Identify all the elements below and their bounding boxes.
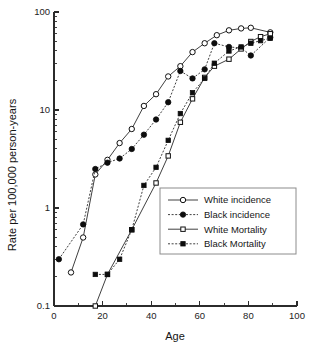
series-1-point-12-marker	[212, 41, 217, 46]
rate-vs-age-log-plot: 0.1110100 020406080100 Rate per 100,000 …	[0, 0, 310, 346]
series-3-point-2-marker	[117, 257, 121, 261]
series-3-point-3-marker	[130, 228, 134, 232]
series-1-point-10-marker	[190, 76, 195, 81]
series-3-point-0-marker	[93, 272, 97, 276]
series-1-point-4-marker	[117, 156, 122, 161]
series-0-point-0-marker	[68, 270, 73, 275]
series-1-point-7-marker	[153, 117, 158, 122]
series-3-point-14-marker	[258, 38, 262, 42]
y-tick-label: 10	[39, 104, 50, 115]
legend-0-marker	[180, 197, 185, 202]
x-tick-label: 60	[195, 310, 206, 321]
series-0-point-6-marker	[141, 103, 146, 108]
series-3-point-5-marker	[154, 165, 158, 169]
series-0-point-12-marker	[214, 32, 219, 37]
series-0-point-8-marker	[166, 74, 171, 79]
series-0-point-10-marker	[190, 49, 195, 54]
legend-label-0: White incidence	[204, 194, 271, 205]
series-1-point-5-marker	[129, 146, 134, 151]
chart-legend: White incidenceBlack incidenceWhite Mort…	[160, 188, 296, 254]
series-3-point-12-marker	[239, 45, 243, 49]
y-tick-label: 100	[34, 6, 50, 17]
y-axis: 0.1110100	[34, 6, 59, 311]
series-3-point-15-marker	[268, 36, 272, 40]
series-1-point-2-marker	[93, 166, 98, 171]
y-tick-label: 0.1	[37, 300, 50, 311]
x-tick-label: 20	[97, 310, 108, 321]
series-2-point-9-marker	[227, 57, 231, 61]
series-2-point-13-marker	[268, 32, 272, 36]
series-1-point-1-marker	[80, 222, 85, 227]
legend-label-1: Black incidence	[204, 209, 270, 220]
series-path-2	[95, 34, 270, 306]
x-axis-title: Age	[165, 330, 185, 342]
series-0-point-11-marker	[202, 41, 207, 46]
series-2-point-6-marker	[190, 97, 194, 101]
x-tick-label: 80	[243, 310, 254, 321]
legend-3-marker	[181, 242, 185, 246]
legend-label-3: Black Mortality	[204, 238, 266, 249]
series-3-point-10-marker	[212, 61, 216, 65]
series-2-point-5-marker	[178, 120, 182, 124]
series-3-point-11-marker	[227, 49, 231, 53]
series-3-point-13-marker	[249, 41, 253, 45]
y-tick-label: 1	[45, 202, 50, 213]
series-3-point-7-marker	[178, 111, 182, 115]
series-0-point-13-marker	[226, 28, 231, 33]
x-axis: 020406080100	[51, 301, 305, 321]
series-3-point-9-marker	[202, 76, 206, 80]
chart-figure: 0.1110100 020406080100 Rate per 100,000 …	[0, 0, 310, 346]
series-2-point-4-marker	[166, 154, 170, 158]
series-3-point-1-marker	[105, 272, 109, 276]
series-0-point-7-marker	[153, 91, 158, 96]
series-1-point-0-marker	[56, 257, 61, 262]
series-2-point-3-marker	[154, 181, 158, 185]
x-tick-label: 0	[51, 310, 56, 321]
data-series-group	[56, 25, 273, 308]
series-1-point-3-marker	[105, 160, 110, 165]
series-1-point-15-marker	[248, 53, 253, 58]
series-0-point-5-marker	[129, 126, 134, 131]
y-axis-title: Rate per 100,000 person-years	[6, 98, 18, 251]
series-3-point-8-marker	[190, 91, 194, 95]
series-0-point-14-marker	[238, 26, 243, 31]
series-2-point-0-marker	[93, 304, 97, 308]
series-1-point-6-marker	[141, 132, 146, 137]
series-1-point-8-marker	[166, 100, 171, 105]
series-3-point-6-marker	[166, 138, 170, 142]
series-white-mortality	[93, 32, 272, 309]
series-1-point-11-marker	[202, 67, 207, 72]
legend-1-marker	[180, 212, 185, 217]
series-0-point-1-marker	[80, 235, 85, 240]
series-1-point-9-marker	[178, 68, 183, 73]
series-3-point-4-marker	[142, 183, 146, 187]
x-tick-label: 40	[146, 310, 157, 321]
series-0-point-4-marker	[117, 140, 122, 145]
series-0-point-15-marker	[248, 25, 253, 30]
x-tick-label: 100	[289, 310, 305, 321]
legend-2-marker	[181, 227, 185, 231]
legend-label-2: White Mortality	[204, 224, 267, 235]
